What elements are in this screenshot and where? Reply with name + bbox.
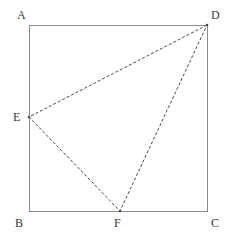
vertex-dot-d: [206, 24, 209, 27]
vertex-dot-f: [119, 210, 122, 213]
vertex-label-e: E: [13, 111, 20, 123]
vertex-label-c: C: [211, 217, 219, 229]
vertex-label-b: B: [15, 217, 23, 229]
vertex-label-f: F: [114, 217, 121, 229]
vertex-dot-e: [28, 116, 31, 119]
geometry-diagram: [0, 0, 229, 242]
diagram-background: [0, 0, 229, 242]
vertex-label-a: A: [17, 9, 26, 21]
vertex-label-d: D: [211, 9, 220, 21]
